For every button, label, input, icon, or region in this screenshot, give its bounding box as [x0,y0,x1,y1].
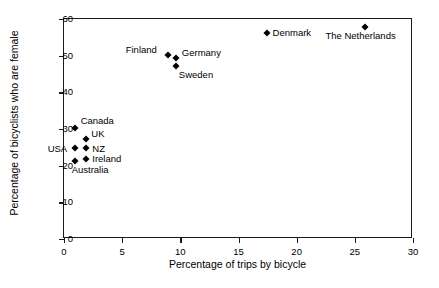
y-tick-label-30: 30 [53,123,73,134]
x-tick-20 [297,238,298,243]
data-point-label: Germany [182,47,221,58]
y-tick-label-50: 50 [53,50,73,61]
data-point-label: USA [48,143,68,154]
x-axis-title: Percentage of trips by bicycle [63,258,412,270]
y-tick-label-40: 40 [53,86,73,97]
y-tick-label-60: 60 [53,13,73,24]
data-point-label: Ireland [92,153,121,164]
y-tick-label-20: 20 [53,160,73,171]
x-tick-label-20: 20 [282,246,312,257]
data-point-label: UK [91,128,104,139]
y-tick-label-10: 10 [53,196,73,207]
data-point-label: The Netherlands [325,30,395,41]
y-tick-label-0: 0 [53,233,73,244]
data-point-label: Sweden [179,69,213,80]
data-point-label: Denmark [273,27,312,38]
x-tick-label-30: 30 [398,246,428,257]
x-tick-label-0: 0 [49,246,79,257]
data-point-label: Canada [81,115,114,126]
y-axis-title: Percentage of bicyclists who are female [8,8,20,238]
x-tick-25 [355,238,356,243]
x-tick-15 [239,238,240,243]
x-tick-label-10: 10 [165,246,195,257]
x-tick-10 [180,238,181,243]
data-point-label: Australia [72,164,109,175]
x-tick-label-25: 25 [340,246,370,257]
data-point-label: Finland [126,44,157,55]
plot-area: 0510152025300102030405060 [63,18,412,238]
x-tick-label-15: 15 [224,246,254,257]
scatter-chart: 0510152025300102030405060 Percentage of … [0,0,439,288]
x-tick-30 [413,238,414,243]
x-tick-label-5: 5 [107,246,137,257]
x-tick-5 [122,238,123,243]
